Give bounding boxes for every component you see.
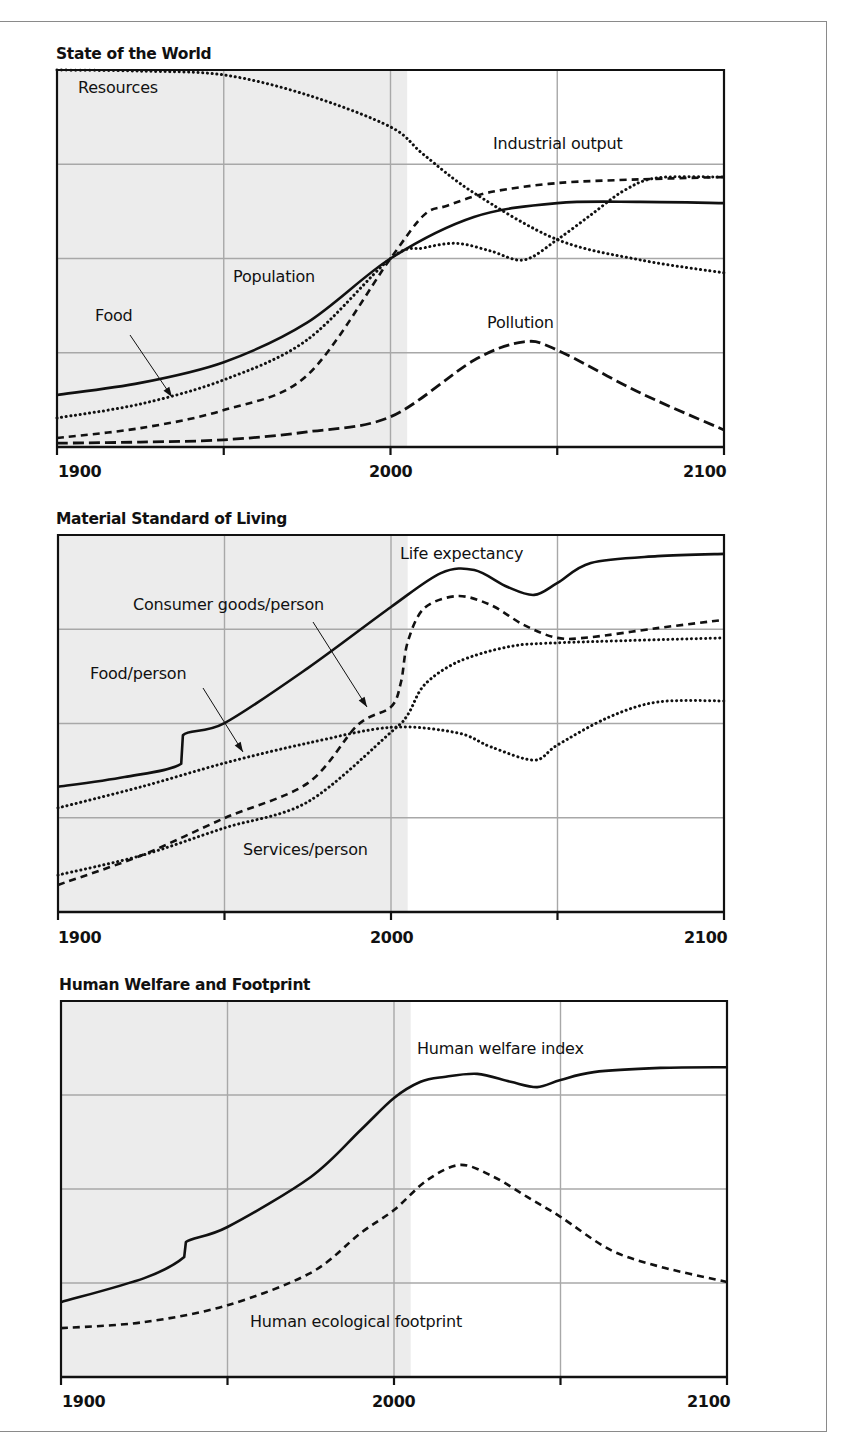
x-tick-2100: 2100 [687,1392,730,1411]
line-chart-human-welfare-and-footprint [0,0,842,1451]
x-tick-2000: 2000 [372,1392,415,1411]
label-human-welfare-index: Human welfare index [417,1039,584,1058]
label-human-ecological-footprint: Human ecological footprint [250,1312,462,1331]
x-tick-1900: 1900 [62,1392,105,1411]
